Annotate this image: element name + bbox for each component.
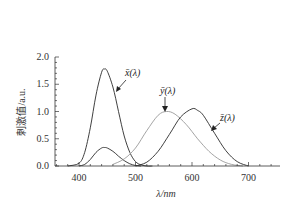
x-tick-label: 500 — [128, 172, 143, 183]
x-axis-title: λ/nm — [155, 188, 175, 199]
annotation-x-bar: x̄(λ) — [116, 67, 141, 92]
annotation-z-bar: z̄(λ) — [211, 112, 236, 131]
curve-label-y: ȳ(λ) — [159, 85, 176, 97]
x-tick-label: 700 — [241, 172, 256, 183]
y-tick-label: 0.0 — [37, 160, 50, 171]
y-ticks — [55, 57, 59, 166]
y-tick-label: 1.5 — [37, 78, 50, 89]
curve-x — [68, 69, 153, 166]
curve-label-z: z̄(λ) — [219, 112, 236, 124]
y-axis-title: 刺激值/a.u. — [15, 88, 27, 135]
x-tick-label: 600 — [185, 172, 200, 183]
x-tick-label: 400 — [72, 172, 87, 183]
y-tick-label: 0.5 — [37, 133, 50, 144]
cie-color-matching-chart: 0.0 0.5 1.0 1.5 2.0 400 500 600 700 λ/nm… — [0, 0, 300, 206]
annotation-y-bar: ȳ(λ) — [159, 85, 176, 112]
y-tick-label: 2.0 — [37, 51, 50, 62]
curve-label-x: x̄(λ) — [124, 67, 141, 79]
y-tick-label: 1.0 — [37, 106, 50, 117]
